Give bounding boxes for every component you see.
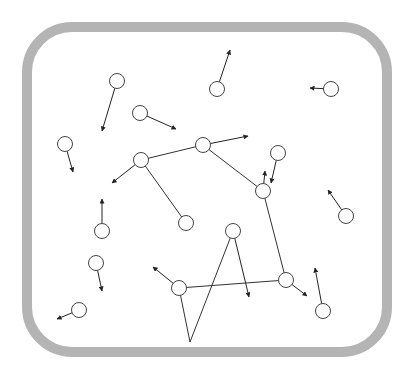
particle-circle	[58, 137, 73, 152]
velocity-arrow-icon	[271, 160, 276, 183]
particle-circle	[316, 304, 331, 319]
velocity-arrow-icon	[210, 136, 248, 144]
velocity-arrow-icon	[153, 267, 173, 283]
link-line	[179, 280, 286, 288]
particle-circle	[279, 273, 294, 288]
link-line	[179, 288, 190, 342]
particle-circle	[179, 216, 194, 231]
link-line	[141, 145, 203, 160]
particle-circle	[95, 224, 110, 239]
velocity-arrow-icon	[102, 88, 115, 131]
link-line	[263, 191, 286, 280]
particle-circle	[210, 82, 225, 97]
particle-circle	[133, 106, 148, 121]
particle-circle	[134, 153, 149, 168]
particle-circle	[172, 281, 187, 296]
velocity-arrow-icon	[98, 270, 102, 291]
velocity-arrow-icon	[57, 313, 72, 319]
velocity-arrows-layer	[57, 50, 342, 319]
particle-diagram	[0, 0, 412, 369]
particle-circle	[196, 138, 211, 153]
particle-circle	[226, 224, 241, 239]
particle-circle	[110, 74, 125, 89]
velocity-arrow-icon	[315, 268, 322, 304]
particles-layer	[58, 74, 354, 319]
velocity-arrow-icon	[147, 116, 176, 129]
velocity-arrow-icon	[235, 238, 249, 297]
particle-circle	[271, 146, 286, 161]
velocity-arrow-icon	[328, 190, 342, 210]
particle-circle	[72, 303, 87, 318]
particle-circle	[89, 256, 104, 271]
link-line	[141, 160, 186, 223]
velocity-arrow-icon	[112, 165, 135, 183]
particle-circle	[256, 184, 271, 199]
velocity-arrow-icon	[219, 50, 230, 82]
velocity-arrow-icon	[310, 88, 324, 89]
diagram-canvas	[0, 0, 412, 369]
link-line	[203, 145, 263, 191]
velocity-arrow-icon	[264, 171, 265, 184]
velocity-arrow-icon	[292, 285, 307, 296]
particle-circle	[324, 82, 339, 97]
velocity-arrow-icon	[67, 151, 73, 172]
particle-circle	[339, 209, 354, 224]
